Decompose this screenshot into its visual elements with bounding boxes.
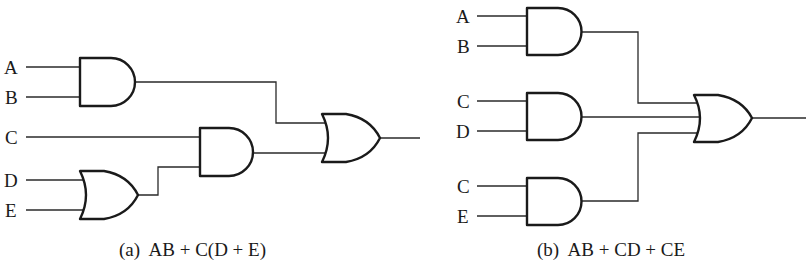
wire-b-ce — [582, 133, 697, 201]
and-gate-ce — [527, 178, 582, 225]
wire-a-d-or-e — [138, 167, 200, 195]
input-label-c: C — [457, 177, 470, 196]
or-gate-output-a — [322, 114, 380, 162]
wire-a-ab — [135, 82, 326, 123]
input-label-b: B — [5, 88, 18, 107]
or-gate-de — [80, 171, 138, 219]
and-gate-ab — [527, 8, 582, 55]
caption-b: (b) AB + CD + CE — [537, 239, 685, 261]
and-gate-cd — [527, 93, 582, 140]
or-gate-output-b — [694, 95, 752, 142]
input-label-c: C — [5, 128, 18, 147]
input-label-e: E — [5, 201, 17, 220]
and-gate-c-de — [200, 128, 253, 176]
input-label-c: C — [457, 92, 470, 111]
circuit-a — [26, 58, 420, 219]
circuit-b — [477, 8, 806, 225]
logic-circuits — [0, 0, 808, 277]
input-label-b: B — [457, 37, 470, 56]
wire-b-ab — [582, 32, 697, 103]
input-label-d: D — [4, 171, 18, 190]
input-label-a: A — [456, 7, 470, 26]
input-label-a: A — [4, 58, 18, 77]
and-gate-ab — [80, 58, 135, 106]
input-label-d: D — [456, 122, 470, 141]
caption-a: (a) AB + C(D + E) — [119, 239, 266, 261]
input-label-e: E — [457, 207, 469, 226]
